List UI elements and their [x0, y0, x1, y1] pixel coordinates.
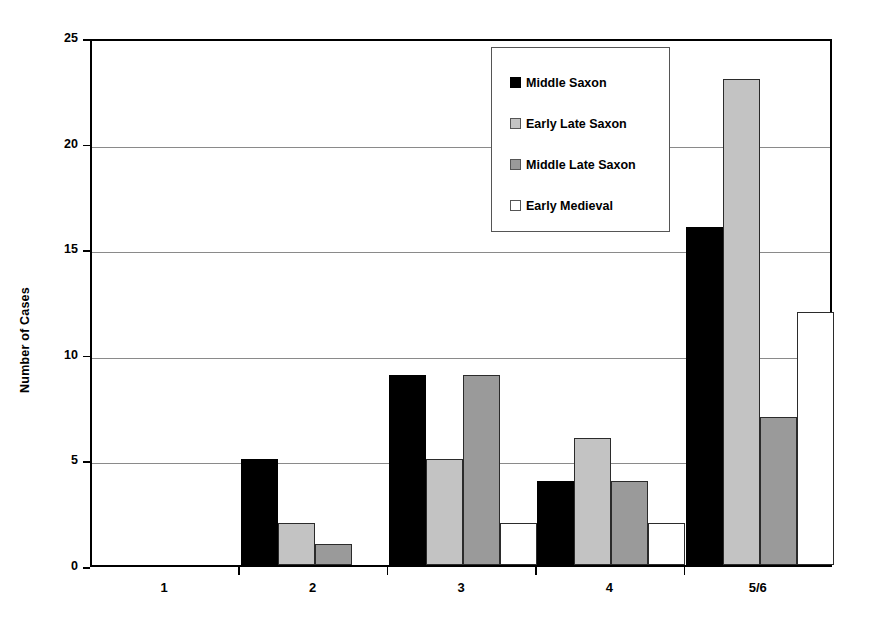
- y-tick-label-20: 20: [20, 138, 78, 151]
- y-axis-title: Number of Cases: [18, 70, 38, 250]
- y-tick-mark-15: [83, 250, 90, 252]
- bar-2-middle-saxon: [241, 459, 278, 565]
- bar-2-middle-late-saxon: [315, 544, 352, 565]
- x-tick-mark-4: [684, 567, 686, 575]
- bar-3-middle-saxon: [389, 375, 426, 565]
- x-tick-label-2: 2: [268, 580, 358, 595]
- legend-swatch-icon: [510, 159, 521, 170]
- bar-5-6-middle-late-saxon: [760, 417, 797, 565]
- chart-legend: Middle SaxonEarly Late SaxonMiddle Late …: [491, 47, 670, 232]
- bar-4-middle-saxon: [537, 481, 574, 565]
- bar-4-early-medieval: [648, 523, 685, 565]
- bar-4-early-late-saxon: [574, 438, 611, 565]
- legend-label: Early Medieval: [526, 199, 613, 213]
- y-tick-label-5: 5: [20, 454, 78, 467]
- bar-5-6-early-medieval: [797, 312, 834, 565]
- x-tick-label-5-6: 5/6: [713, 580, 803, 595]
- y-tick-mark-25: [83, 39, 90, 41]
- y-tick-label-15: 15: [20, 243, 78, 256]
- x-tick-label-3: 3: [416, 580, 506, 595]
- x-tick-mark-3: [535, 567, 537, 575]
- chart-figure: Number of Cases 0510152025 12345/6 Middl…: [0, 0, 875, 631]
- legend-label: Early Late Saxon: [526, 117, 627, 131]
- bar-2-early-late-saxon: [278, 523, 315, 565]
- bar-5-6-middle-saxon: [686, 227, 723, 565]
- y-tick-label-0: 0: [20, 560, 78, 573]
- legend-item-early-late-saxon: Early Late Saxon: [510, 103, 669, 144]
- bar-3-early-medieval: [500, 523, 537, 565]
- x-tick-mark-1: [238, 567, 240, 575]
- legend-label: Middle Saxon: [526, 76, 607, 90]
- plot-area: [90, 39, 832, 567]
- legend-swatch-icon: [510, 118, 521, 129]
- bar-group: [92, 41, 830, 565]
- legend-item-middle-late-saxon: Middle Late Saxon: [510, 144, 669, 185]
- x-tick-label-4: 4: [564, 580, 654, 595]
- bar-3-early-late-saxon: [426, 459, 463, 565]
- y-tick-label-25: 25: [20, 32, 78, 45]
- y-tick-mark-5: [83, 461, 90, 463]
- legend-swatch-icon: [510, 77, 521, 88]
- bar-4-middle-late-saxon: [611, 481, 648, 565]
- legend-item-early-medieval: Early Medieval: [510, 185, 669, 226]
- bar-5-6-early-late-saxon: [723, 79, 760, 565]
- x-tick-label-1: 1: [119, 580, 209, 595]
- bar-3-middle-late-saxon: [463, 375, 500, 565]
- y-tick-mark-0: [83, 567, 90, 569]
- y-tick-mark-10: [83, 356, 90, 358]
- y-tick-label-10: 10: [20, 349, 78, 362]
- x-tick-mark-2: [387, 567, 389, 575]
- legend-swatch-icon: [510, 200, 521, 211]
- legend-item-middle-saxon: Middle Saxon: [510, 62, 669, 103]
- legend-label: Middle Late Saxon: [526, 158, 636, 172]
- y-tick-mark-20: [83, 145, 90, 147]
